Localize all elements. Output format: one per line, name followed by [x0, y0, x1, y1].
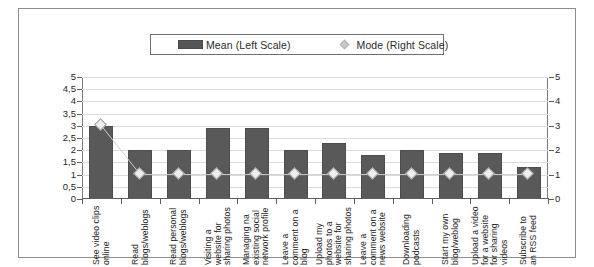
x-axis-category-text: Downloading podcasts	[402, 205, 421, 265]
y-axis-right: 012345	[555, 77, 585, 199]
x-axis-tick	[548, 198, 549, 204]
x-axis-category-text: See video clips online	[92, 205, 111, 265]
bar	[284, 150, 308, 199]
x-axis-category-label: Visiting a website for sharing photos	[199, 205, 238, 267]
legend-label-mode: Mode (Right Scale)	[357, 39, 449, 51]
x-axis-category-label: Read personal blogs/weblogs	[160, 205, 199, 267]
bar-slot	[237, 77, 276, 199]
bar	[322, 143, 346, 199]
y-left-tick-label: 2	[71, 145, 76, 155]
bar-slot	[393, 77, 432, 199]
bar	[400, 150, 424, 199]
bar-slot	[121, 77, 160, 199]
y-right-tick-label: 3	[555, 121, 560, 131]
chart-legend: Mean (Left Scale) Mode (Right Scale)	[150, 34, 444, 55]
x-axis-category-text: Upload my photos to a website for sharin…	[315, 205, 353, 265]
x-axis-tick	[160, 198, 161, 204]
x-axis-tick	[276, 198, 277, 204]
x-axis-category-label: Read blogs/weblogs	[121, 205, 160, 267]
y-right-tick	[549, 199, 554, 200]
legend-diamond-marker-icon	[339, 39, 350, 50]
x-axis-category-label: Upload a video for a website for sharing…	[470, 205, 509, 267]
y-left-tick-label: 3	[71, 121, 76, 131]
x-axis-category-text: Start my own blog/weblog	[441, 205, 460, 265]
y-left-tick-label: 4,5	[63, 84, 76, 94]
x-axis-category-label: Subscribe to an RSS feed	[509, 205, 548, 267]
x-axis-tick	[82, 198, 83, 204]
x-axis-tick	[432, 198, 433, 204]
x-axis-category-text: Subscribe to an RSS feed	[519, 205, 538, 265]
y-left-tick-label: 5	[71, 72, 76, 82]
y-left-tick-label: 4	[71, 97, 76, 107]
bar	[361, 155, 385, 199]
bar	[167, 150, 191, 199]
y-left-tick-label: 1	[71, 170, 76, 180]
y-left-tick-label: 0	[71, 194, 76, 204]
bar-slot	[354, 77, 393, 199]
bar-slot	[276, 77, 315, 199]
bar	[439, 153, 463, 199]
y-right-tick	[549, 126, 554, 127]
y-left-tick-label: 2,5	[63, 133, 76, 143]
legend-item-mean: Mean (Left Scale)	[178, 39, 291, 51]
x-axis-tick	[393, 198, 394, 204]
x-axis-tick	[509, 198, 510, 204]
x-axis-category-text: Upload a video for a website for sharing…	[471, 205, 509, 265]
x-axis-tick	[199, 198, 200, 204]
y-right-tick-label: 4	[555, 97, 560, 107]
x-axis-category-text: Visiting a website for sharing photos	[204, 205, 233, 265]
x-axis-ticks	[82, 198, 548, 204]
bar-slot	[432, 77, 471, 199]
bar-slot	[82, 77, 121, 199]
y-axis-left: 00,511,522,533,544,55	[45, 77, 76, 199]
chart-frame: Mean (Left Scale) Mode (Right Scale) 00,…	[18, 8, 576, 258]
x-axis-category-label: Leave a comment on a news website	[354, 205, 393, 267]
x-axis-category-text: Leave a comment on a news website	[359, 205, 388, 265]
x-axis-category-label: Leave a comment on a blog	[276, 205, 315, 267]
bar-slot	[199, 77, 238, 199]
y-right-tick	[549, 77, 554, 78]
legend-item-mode: Mode (Right Scale)	[339, 39, 449, 51]
x-axis-tick	[121, 198, 122, 204]
x-axis-category-text: Read blogs/weblogs	[131, 205, 150, 265]
y-left-tick-label: 1,5	[63, 158, 76, 168]
y-right-tick-label: 5	[555, 72, 560, 82]
y-right-tick-label: 2	[555, 145, 560, 155]
bar	[517, 167, 541, 199]
legend-bar-swatch-icon	[178, 40, 203, 49]
x-axis-tick	[315, 198, 316, 204]
bar	[245, 128, 269, 199]
x-axis-category-label: See video clips online	[82, 205, 121, 267]
bar-slot	[315, 77, 354, 199]
x-axis-labels: See video clips onlineRead blogs/weblogs…	[82, 205, 548, 267]
x-axis-tick	[237, 198, 238, 204]
bar-slot	[470, 77, 509, 199]
y-right-tick	[549, 150, 554, 151]
y-right-tick	[549, 101, 554, 102]
bar-slot	[509, 77, 548, 199]
x-axis-category-label: Managing na existing social network prof…	[237, 205, 276, 267]
bar	[89, 126, 113, 199]
x-axis-tick	[470, 198, 471, 204]
y-right-tick	[549, 175, 554, 176]
plot-area	[82, 77, 548, 199]
x-axis-tick	[354, 198, 355, 204]
y-left-tick-label: 0,5	[63, 182, 76, 192]
legend-label-mean: Mean (Left Scale)	[206, 39, 291, 51]
bar	[206, 128, 230, 199]
bar-series-mean	[82, 77, 548, 199]
x-axis-category-label: Downloading podcasts	[393, 205, 432, 267]
y-right-tick-label: 1	[555, 170, 560, 180]
y-right-tick-label: 0	[555, 194, 560, 204]
bar	[128, 150, 152, 199]
x-axis-category-text: Managing na existing social network prof…	[242, 205, 271, 265]
x-axis-category-text: Read personal blogs/weblogs	[169, 205, 188, 265]
x-axis-category-label: Upload my photos to a website for sharin…	[315, 205, 354, 267]
y-left-tick-label: 3,5	[63, 109, 76, 119]
bar	[478, 153, 502, 199]
x-axis-category-text: Leave a comment on a blog	[281, 205, 310, 265]
bar-slot	[160, 77, 199, 199]
x-axis-category-label: Start my own blog/weblog	[432, 205, 471, 267]
